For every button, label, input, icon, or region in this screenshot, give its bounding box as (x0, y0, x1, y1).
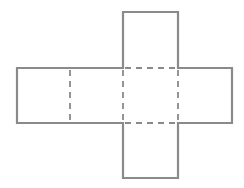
net-outline (17, 12, 232, 178)
outline (17, 12, 232, 178)
fold-lines (70, 68, 178, 123)
cube-net-diagram (0, 0, 244, 188)
